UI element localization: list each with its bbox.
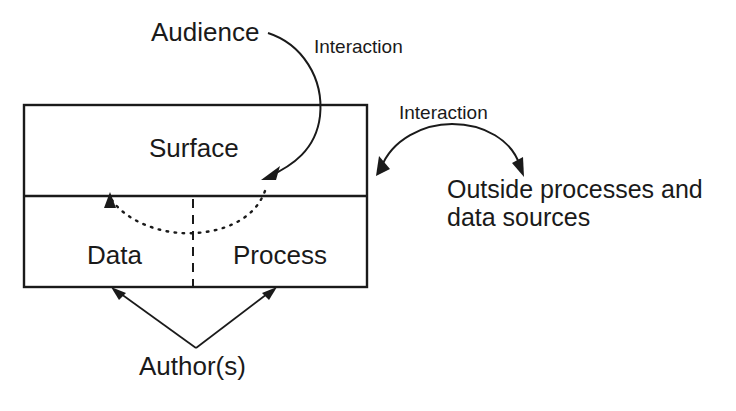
author-to-data-line (117, 291, 196, 348)
diagram-canvas: Audience Interaction Interaction Surface… (0, 0, 736, 411)
audience-arrowhead-icon (261, 166, 280, 180)
process-to-data-dotted-arc (112, 191, 265, 233)
author-to-process-arrowhead-icon (262, 287, 277, 300)
label-interaction-right: Interaction (399, 102, 488, 123)
outside-right-arrowhead-icon (512, 157, 524, 177)
label-outside-line-2: data sources (447, 203, 590, 231)
label-audience: Audience (151, 18, 259, 47)
label-authors: Author(s) (139, 352, 246, 381)
label-outside-line-1: Outside processes and (447, 175, 703, 203)
label-outside-processes: Outside processes anddata sources (447, 175, 703, 231)
outside-left-arrowhead-icon (376, 156, 390, 176)
label-surface: Surface (149, 134, 239, 163)
author-to-process-line (196, 291, 271, 348)
label-process: Process (233, 241, 327, 270)
data-arrowhead-icon (104, 192, 116, 208)
label-data: Data (87, 241, 142, 270)
label-interaction-top: Interaction (314, 36, 403, 57)
author-to-data-arrowhead-icon (111, 287, 126, 300)
outside-interaction-curve (381, 124, 520, 168)
